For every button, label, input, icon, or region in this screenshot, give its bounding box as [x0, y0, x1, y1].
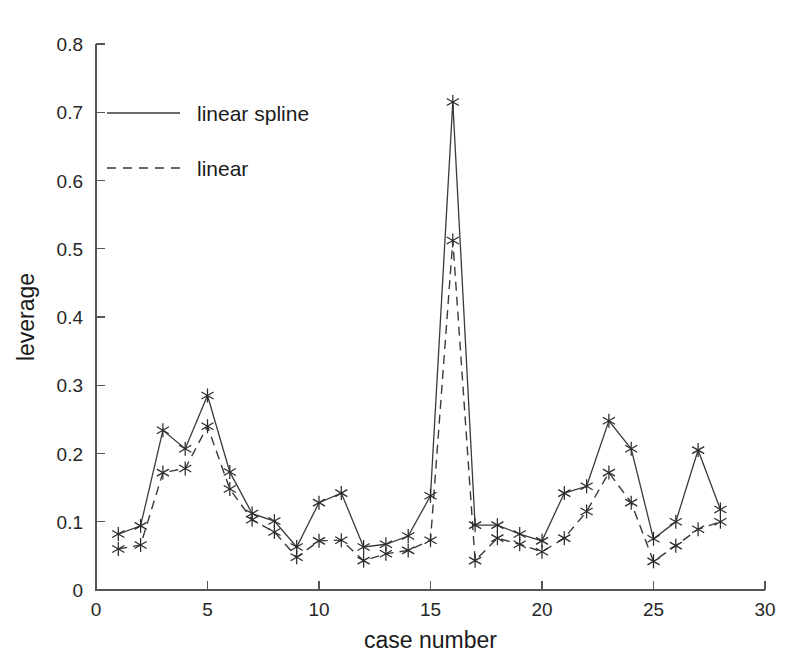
asterisk-marker — [179, 442, 191, 456]
asterisk-marker — [157, 423, 169, 437]
x-tick-label: 20 — [531, 599, 552, 620]
x-tick-label: 15 — [420, 599, 441, 620]
asterisk-marker — [335, 486, 347, 500]
chart-legend: linear splinelinear — [107, 102, 309, 180]
asterisk-marker — [291, 550, 303, 564]
asterisk-marker — [402, 529, 414, 543]
axes: 00.10.20.30.40.50.60.70.8051015202530 — [57, 34, 776, 620]
y-tick-label: 0.2 — [57, 444, 83, 465]
asterisk-marker — [224, 465, 236, 479]
asterisk-marker — [179, 462, 191, 476]
asterisk-marker — [670, 515, 682, 529]
legend-label: linear — [197, 157, 248, 180]
asterisk-marker — [135, 538, 147, 552]
asterisk-marker — [157, 466, 169, 480]
asterisk-marker — [447, 95, 459, 109]
axis-titles: case numberleverage — [13, 273, 497, 653]
asterisk-marker — [358, 554, 370, 568]
x-axis-title: case number — [364, 627, 497, 653]
y-tick-label: 0.7 — [57, 102, 83, 123]
asterisk-marker — [112, 542, 124, 556]
asterisk-marker — [536, 545, 548, 559]
asterisk-marker — [201, 388, 213, 402]
asterisk-marker — [714, 515, 726, 529]
asterisk-marker — [647, 554, 659, 568]
y-tick-label: 0.5 — [57, 239, 83, 260]
x-tick-label: 25 — [643, 599, 664, 620]
y-tick-label: 0 — [72, 580, 83, 601]
asterisk-marker — [625, 496, 637, 510]
figure-canvas: 00.10.20.30.40.50.60.70.8051015202530 li… — [0, 0, 805, 669]
y-tick-label: 0.4 — [57, 307, 84, 328]
asterisk-marker — [112, 527, 124, 541]
y-axis-title: leverage — [13, 273, 39, 361]
leverage-line-chart: 00.10.20.30.40.50.60.70.8051015202530 li… — [0, 0, 805, 669]
asterisk-marker — [692, 522, 704, 536]
asterisk-marker — [558, 486, 570, 500]
asterisk-marker — [714, 502, 726, 516]
x-tick-label: 0 — [91, 599, 102, 620]
asterisk-marker — [313, 496, 325, 510]
asterisk-marker — [447, 234, 459, 248]
y-tick-label: 0.1 — [57, 512, 83, 533]
legend-label: linear spline — [197, 102, 309, 125]
asterisk-marker — [670, 539, 682, 553]
asterisk-marker — [692, 443, 704, 457]
axis-spines — [96, 44, 765, 590]
asterisk-marker — [424, 533, 436, 547]
asterisk-marker — [514, 537, 526, 551]
asterisk-marker — [647, 532, 659, 546]
x-tick-label: 5 — [202, 599, 213, 620]
y-tick-label: 0.8 — [57, 34, 83, 55]
asterisk-marker — [581, 479, 593, 493]
x-tick-label: 30 — [754, 599, 775, 620]
y-tick-label: 0.6 — [57, 171, 83, 192]
x-tick-label: 10 — [308, 599, 329, 620]
asterisk-marker — [201, 419, 213, 433]
y-tick-label: 0.3 — [57, 375, 83, 396]
